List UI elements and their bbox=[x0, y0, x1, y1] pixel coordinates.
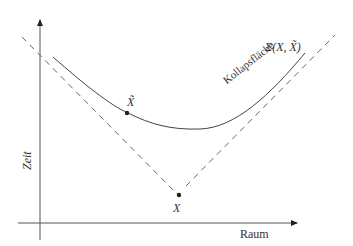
time-axis-label: Zeit bbox=[20, 151, 35, 170]
point-x-label: X bbox=[173, 201, 180, 216]
space-axis-label: Raum bbox=[240, 227, 269, 242]
point-x-tilde-label: X̃ bbox=[127, 95, 134, 110]
point-x-tilde bbox=[125, 111, 129, 115]
point-x bbox=[177, 193, 181, 197]
collapse-surface-curve bbox=[53, 53, 305, 129]
past-light-cone-left bbox=[22, 37, 178, 195]
